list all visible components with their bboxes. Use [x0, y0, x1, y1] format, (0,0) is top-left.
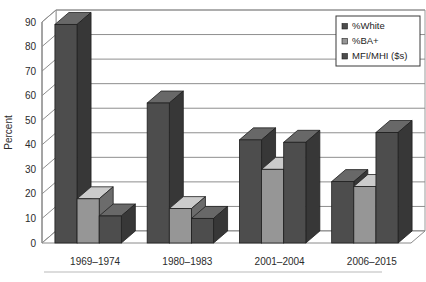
- y-tick-label-0: 0: [30, 238, 36, 249]
- y-axis-title: Percent: [3, 115, 14, 150]
- bar-front-face: [99, 216, 121, 243]
- y-tick-label-60: 60: [25, 90, 37, 101]
- x-category-label-1: 1980–1983: [162, 256, 212, 267]
- bar-front-face: [147, 103, 169, 243]
- bar-front-face: [354, 187, 376, 243]
- bar-2-series-2: [284, 130, 320, 243]
- legend-swatch-2: [342, 54, 348, 60]
- bar-side-face: [398, 121, 412, 244]
- y-tick-label-40: 40: [25, 139, 37, 150]
- bar-front-face: [191, 218, 213, 243]
- y-tick-label-80: 80: [25, 41, 37, 52]
- bar-front-face: [332, 182, 354, 243]
- legend-label-1: %BA+: [352, 35, 379, 46]
- bar-3-series-2: [376, 121, 412, 244]
- x-category-label-3: 2006–2015: [347, 256, 397, 267]
- bar-front-face: [239, 140, 261, 243]
- bar-front-face: [262, 169, 284, 243]
- y-tick-label-50: 50: [25, 115, 37, 126]
- y-tick-label-10: 10: [25, 213, 37, 224]
- y-tick-label-30: 30: [25, 164, 37, 175]
- chart-canvas: 0102030405060708090Percent1969–19741980–…: [0, 0, 426, 282]
- y-tick-label-20: 20: [25, 188, 37, 199]
- x-category-label-0: 1969–1974: [70, 256, 120, 267]
- bar-front-face: [55, 24, 77, 243]
- bar-front-face: [376, 133, 398, 244]
- bar-front-face: [169, 209, 191, 243]
- y-tick-label-90: 90: [25, 17, 37, 28]
- x-category-label-2: 2001–2004: [255, 256, 305, 267]
- legend-label-0: %White: [352, 20, 385, 31]
- legend-swatch-1: [342, 39, 348, 45]
- legend-label-2: MFI/MHI ($s): [352, 50, 407, 61]
- bar-front-face: [77, 199, 99, 243]
- bar-side-face: [306, 130, 320, 243]
- y-tick-label-70: 70: [25, 66, 37, 77]
- bar-chart-figure: 0102030405060708090Percent1969–19741980–…: [0, 0, 426, 282]
- bar-front-face: [284, 142, 306, 243]
- legend-swatch-0: [342, 24, 348, 30]
